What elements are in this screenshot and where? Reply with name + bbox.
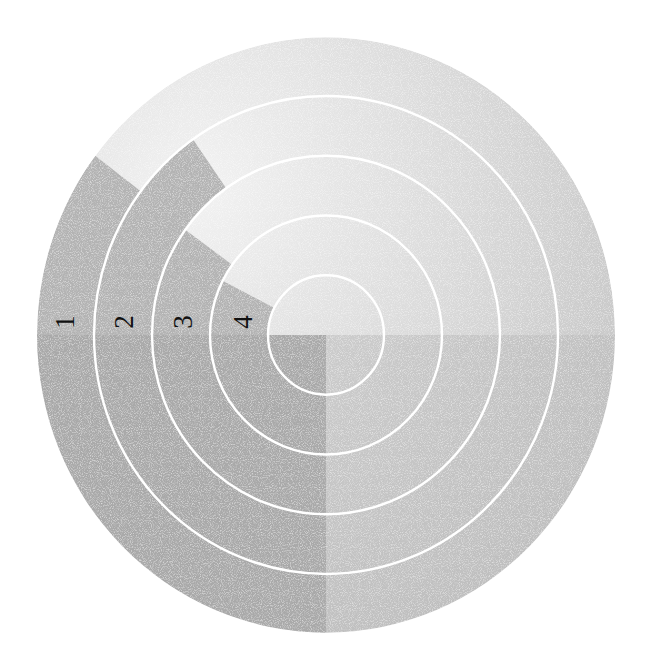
ring-label-1: 1 <box>50 315 80 329</box>
lower-right-shade <box>326 335 626 644</box>
lower-left-quadrant <box>26 335 326 644</box>
ring-label-3: 3 <box>168 315 198 329</box>
ring-label-2: 2 <box>109 315 139 329</box>
radial-bar-chart: 1 2 3 4 <box>0 0 654 647</box>
plot-area <box>26 37 626 644</box>
ring-label-4: 4 <box>228 315 258 329</box>
